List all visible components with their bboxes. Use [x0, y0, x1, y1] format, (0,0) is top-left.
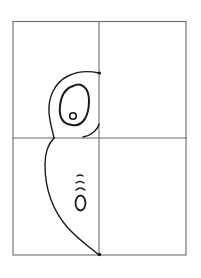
- owl-half-drawing: [45, 71, 101, 256]
- feather-marks: [76, 175, 85, 190]
- feather-mark-2: [76, 182, 84, 184]
- owl-eye-pupil: [70, 113, 77, 120]
- grid: [13, 22, 187, 256]
- belly-spot: [76, 196, 86, 211]
- top-dot: [98, 71, 101, 74]
- feather-mark-1: [77, 175, 83, 176]
- bottom-dot: [98, 253, 101, 256]
- owl-head-outline: [49, 72, 99, 138]
- feather-mark-3: [76, 188, 85, 190]
- owl-head-inner-curve: [83, 124, 99, 137]
- owl-body-outline: [45, 138, 99, 255]
- owl-symmetry-diagram: [0, 0, 201, 278]
